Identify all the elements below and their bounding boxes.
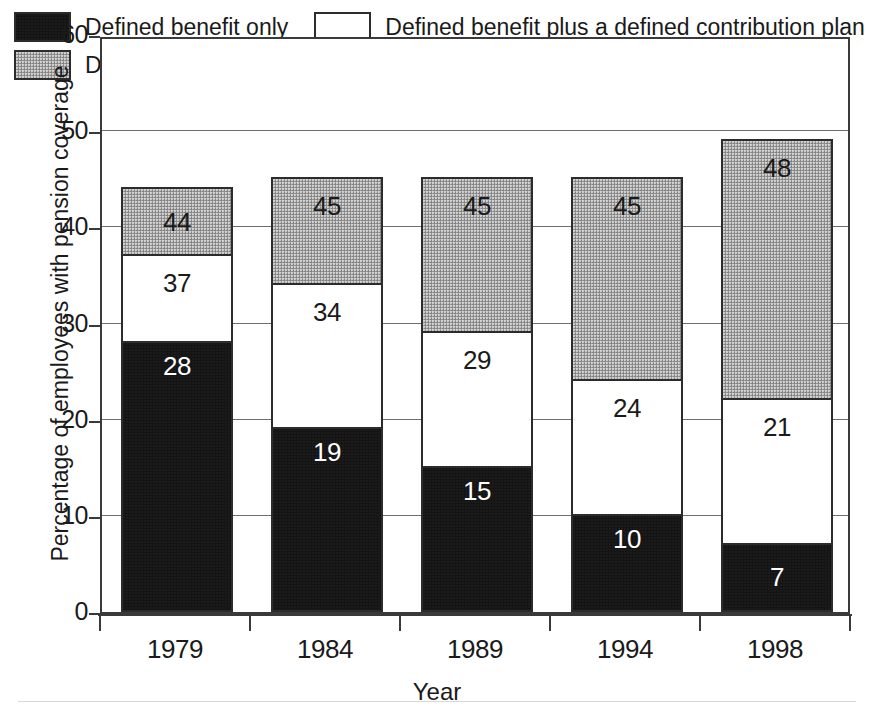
- y-tick-label-0: 0: [36, 597, 88, 626]
- bar-segment[interactable]: 45: [421, 177, 533, 333]
- x-tick-label-1998: 1998: [700, 634, 850, 665]
- x-tick-mark-1: [249, 616, 251, 631]
- bar-segment[interactable]: 10: [571, 514, 683, 612]
- bar-value-label: 10: [613, 526, 641, 552]
- bar-segment[interactable]: 44: [121, 187, 233, 256]
- plot-area: 28374419344515294510244572148: [100, 37, 850, 614]
- bar-group-1979[interactable]: 283744: [121, 189, 233, 612]
- bar-group-1998[interactable]: 72148: [721, 141, 833, 612]
- y-tick-label-20: 20: [36, 405, 88, 434]
- bar-segment[interactable]: 45: [571, 177, 683, 381]
- x-tick-label-1984: 1984: [250, 634, 400, 665]
- y-tick-mark-0: [89, 613, 100, 615]
- bar-segment[interactable]: 45: [271, 177, 383, 285]
- bar-value-label: 21: [763, 414, 791, 440]
- bar-segment[interactable]: 7: [721, 543, 833, 612]
- x-tick-label-1994: 1994: [550, 634, 700, 665]
- x-tick-label-1989: 1989: [400, 634, 550, 665]
- y-tick-label-40: 40: [36, 212, 88, 241]
- bar-segment[interactable]: 19: [271, 427, 383, 612]
- y-tick-label-10: 10: [36, 501, 88, 530]
- bar-segment[interactable]: 24: [571, 379, 683, 516]
- bar-value-label: 34: [313, 299, 341, 325]
- bar-value-label: 28: [163, 353, 191, 379]
- y-tick-label-60: 60: [36, 20, 88, 49]
- bar-segment[interactable]: 34: [271, 283, 383, 429]
- x-axis-line: [98, 614, 852, 616]
- gridline-50: [102, 130, 848, 131]
- y-tick-mark-60: [89, 36, 100, 38]
- bar-value-label: 29: [463, 347, 491, 373]
- y-tick-mark-10: [89, 517, 100, 519]
- page-rule: [18, 701, 856, 702]
- x-tick-mark-2: [399, 616, 401, 631]
- x-tick-mark-3: [549, 616, 551, 631]
- x-tick-mark-5: [849, 616, 851, 631]
- x-tick-mark-4: [699, 616, 701, 631]
- y-tick-mark-50: [89, 132, 100, 134]
- y-tick-label-50: 50: [36, 116, 88, 145]
- bar-value-label: 19: [313, 439, 341, 465]
- bar-segment[interactable]: 21: [721, 398, 833, 544]
- bar-group-1984[interactable]: 193445: [271, 179, 383, 612]
- bar-value-label: 44: [163, 209, 191, 235]
- bar-value-label: 45: [313, 193, 341, 219]
- bar-segment[interactable]: 37: [121, 254, 233, 343]
- bar-segment[interactable]: 28: [121, 341, 233, 612]
- bar-segment[interactable]: 29: [421, 331, 533, 468]
- bar-value-label: 45: [613, 193, 641, 219]
- y-tick-mark-30: [89, 325, 100, 327]
- pension-coverage-chart: Defined benefit only Defined benefit plu…: [0, 0, 874, 716]
- bar-value-label: 45: [463, 193, 491, 219]
- x-tick-mark-0: [99, 616, 101, 631]
- bar-segment[interactable]: 48: [721, 139, 833, 401]
- y-tick-label-30: 30: [36, 309, 88, 338]
- bar-value-label: 15: [463, 478, 491, 504]
- bar-segment[interactable]: 15: [421, 466, 533, 612]
- y-tick-mark-40: [89, 228, 100, 230]
- bar-value-label: 24: [613, 395, 641, 421]
- bar-value-label: 48: [763, 155, 791, 181]
- bar-group-1989[interactable]: 152945: [421, 179, 533, 612]
- bar-value-label: 7: [770, 564, 784, 590]
- bar-group-1994[interactable]: 102445: [571, 179, 683, 612]
- y-tick-mark-20: [89, 421, 100, 423]
- x-tick-label-1979: 1979: [100, 634, 250, 665]
- bar-value-label: 37: [163, 270, 191, 296]
